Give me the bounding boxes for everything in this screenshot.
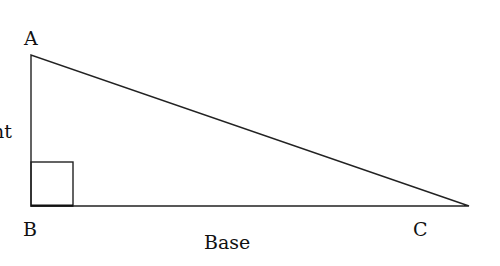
vertex-label-a: A [23, 27, 38, 49]
right-triangle-diagram: A B C Base Height [0, 0, 500, 266]
right-angle-marker [31, 162, 73, 206]
vertex-label-b: B [23, 218, 37, 240]
side-label-base: Base [204, 231, 250, 253]
triangle-abc [31, 55, 469, 206]
vertex-label-c: C [413, 218, 428, 240]
side-label-height: Height [0, 120, 12, 142]
